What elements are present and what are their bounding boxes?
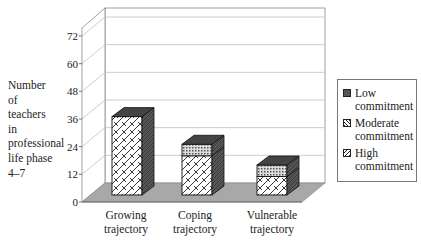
y-tick-label: 24 (58, 141, 78, 153)
legend-swatch-high (343, 149, 351, 157)
y-tick-label: 0 (58, 196, 78, 208)
y-tick-label: 12 (58, 168, 78, 180)
x-category-coping: Copingtrajectory (155, 208, 235, 236)
y-tick-label: 48 (58, 85, 78, 97)
legend-item-low: Lowcommitment (343, 87, 416, 113)
x-category-vulnerable: Vulnerabletrajectory (232, 208, 312, 236)
y-tick-label: 72 (58, 30, 78, 42)
bar-growing (112, 108, 154, 195)
legend: Lowcommitment Moderatecommitment Highcom… (337, 79, 417, 182)
legend-swatch-moderate (343, 119, 351, 127)
bar-coping (182, 135, 224, 195)
legend-item-moderate: Moderatecommitment (343, 117, 416, 143)
legend-item-high: Highcommitment (343, 147, 416, 173)
y-tick-label: 60 (58, 58, 78, 70)
bar-vulnerable (257, 156, 299, 195)
x-category-growing: Growingtrajectory (86, 208, 166, 236)
y-tick-label: 36 (58, 113, 78, 125)
legend-swatch-low (343, 89, 351, 97)
